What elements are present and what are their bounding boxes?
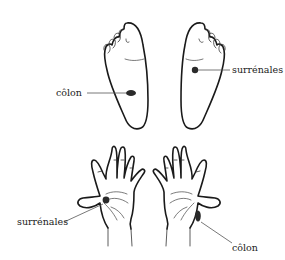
right-foot: surrénales: [181, 23, 283, 129]
adrenal-point-foot: [192, 67, 198, 73]
colon-leader-hand: [201, 222, 232, 243]
colon-label-hand: côlon: [232, 242, 258, 253]
left-foot: côlon: [56, 23, 148, 129]
adrenal-point-hand: [103, 197, 110, 204]
right-hand: côlon: [153, 146, 258, 253]
left-hand: surrénales: [17, 146, 145, 246]
colon-label-foot: côlon: [56, 87, 82, 98]
adrenal-label-foot: surrénales: [232, 64, 283, 75]
colon-point-foot: [126, 90, 136, 96]
reflexology-figure: côlon surrénales surrénales: [0, 0, 285, 260]
colon-point-hand: [195, 211, 201, 222]
adrenal-label-hand: surrénales: [17, 216, 68, 227]
